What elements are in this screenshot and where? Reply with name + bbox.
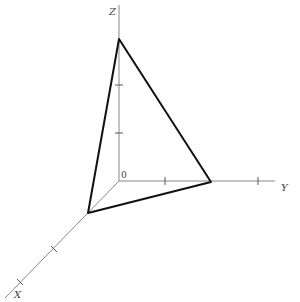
origin-label: 0 [121,170,127,180]
x-axis-label: X [13,289,22,300]
diagram-canvas: Z Y X 0 [0,0,300,302]
y-axis-label: Y [281,182,289,193]
x-axis [5,181,119,298]
intercept-triangle [88,39,211,213]
z-axis-label: Z [108,6,117,17]
